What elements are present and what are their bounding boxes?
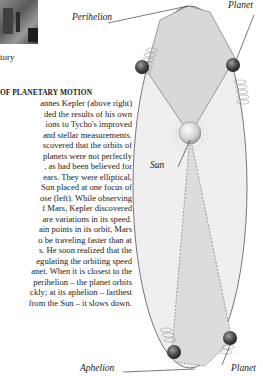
- planet-icon: [226, 58, 240, 72]
- orbit-diagram: [0, 0, 263, 376]
- planet-label-bottom: Planet: [231, 363, 256, 373]
- aphelion-label: Aphelion: [80, 363, 114, 373]
- sun-label: Sun: [150, 160, 164, 170]
- planet-icon: [223, 331, 237, 345]
- perihelion-label: Perihelion: [72, 12, 112, 22]
- planet-icon: [167, 345, 181, 359]
- planet-label-top: Planet: [228, 0, 253, 10]
- planet-icon: [135, 60, 149, 74]
